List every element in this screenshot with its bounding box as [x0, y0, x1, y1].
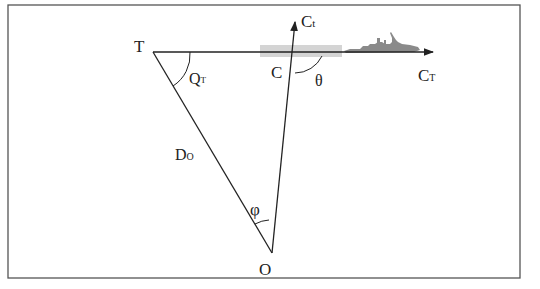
angle-qt-arc: [173, 52, 190, 86]
point-O-label: O: [259, 260, 271, 279]
diagram-canvas: T QT Ct C θ CT DO φ O: [0, 0, 540, 289]
angle-phi-label: φ: [250, 200, 260, 219]
angle-theta-arc: [295, 56, 322, 73]
target-course-label: CT: [418, 66, 435, 85]
angle-qt-label: QT: [189, 70, 207, 87]
point-C-label: C: [271, 63, 282, 82]
own-course-label: Ct: [301, 12, 315, 31]
angle-theta-label: θ: [315, 72, 323, 89]
highlight-band: [260, 45, 342, 57]
point-T-label: T: [134, 37, 145, 56]
distance-line-DO: [153, 52, 272, 253]
distance-label: DO: [175, 146, 194, 163]
warship-silhouette-icon: [344, 32, 420, 53]
angle-phi-arc: [255, 220, 269, 224]
